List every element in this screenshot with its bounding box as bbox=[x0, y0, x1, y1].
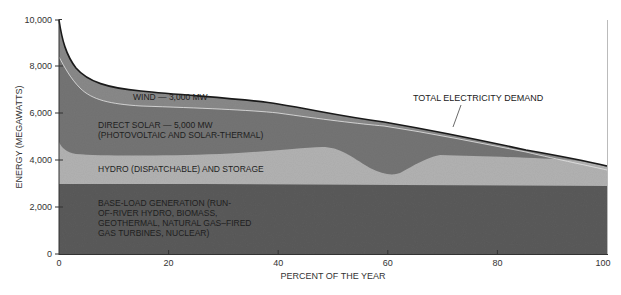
x-tick-label: 80 bbox=[492, 258, 502, 268]
x-tick-label: 0 bbox=[56, 258, 61, 268]
x-axis-title: PERCENT OF THE YEAR bbox=[280, 271, 386, 281]
x-tick-label: 60 bbox=[383, 258, 393, 268]
y-tick-label: 4,000 bbox=[29, 155, 52, 165]
solar-label-line2: (PHOTOVOLTAIC AND SOLAR-THERMAL) bbox=[98, 130, 263, 140]
y-tick-label: 10,000 bbox=[24, 15, 52, 25]
base-load-label-line1: BASE-LOAD GENERATION (RUN- bbox=[98, 198, 231, 208]
base-load-label-line4: GAS TURBINES, NUCLEAR) bbox=[98, 228, 209, 238]
y-tick-label: 6,000 bbox=[29, 108, 52, 118]
base-load-label-line2: OF-RIVER HYDRO, BIOMASS, bbox=[98, 208, 218, 218]
base-load-label-line3: GEOTHERMAL, NATURAL GAS–FIRED bbox=[98, 218, 252, 228]
load-duration-chart: 0 2,000 4,000 6,000 8,000 10,000 0 20 40… bbox=[0, 0, 621, 295]
total-demand-leader bbox=[453, 105, 461, 127]
x-tick-label: 100 bbox=[595, 258, 610, 268]
y-tick-label: 0 bbox=[47, 249, 52, 259]
hydro-label: HYDRO (DISPATCHABLE) AND STORAGE bbox=[98, 164, 264, 174]
y-tick-label: 2,000 bbox=[29, 202, 52, 212]
wind-label: WIND — 3,000 MW bbox=[133, 92, 208, 102]
x-tick-label: 40 bbox=[273, 258, 283, 268]
y-axis-title: ENERGY (MEGAWATTS) bbox=[14, 85, 24, 188]
y-tick-label: 8,000 bbox=[29, 61, 52, 71]
total-demand-label: TOTAL ELECTRICITY DEMAND bbox=[413, 93, 544, 103]
x-tick-label: 20 bbox=[164, 258, 174, 268]
solar-label-line1: DIRECT SOLAR — 5,000 MW bbox=[98, 120, 213, 130]
